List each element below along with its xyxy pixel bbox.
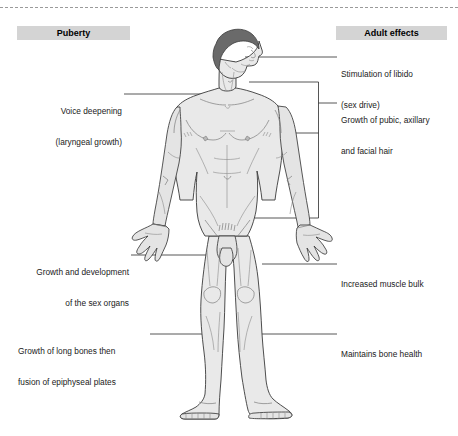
- label-growth-sex-organs-line2: of the sex organs: [8, 298, 129, 308]
- label-growth-hair-line2: and facial hair: [341, 146, 456, 156]
- diagram-canvas: Puberty Adult effects: [0, 0, 458, 436]
- label-growth-sex-organs: Growth and development of the sex organs: [8, 247, 129, 329]
- label-voice-deepening: Voice deepening (laryngeal growth): [8, 86, 122, 168]
- label-growth-hair: Growth of pubic, axillary and facial hai…: [341, 95, 456, 177]
- label-increased-muscle-bulk-line1: Increased muscle bulk: [341, 279, 453, 289]
- label-maintains-bone-health: Maintains bone health: [341, 329, 453, 380]
- label-voice-deepening-line1: Voice deepening: [8, 106, 122, 116]
- label-maintains-bone-health-line1: Maintains bone health: [341, 349, 453, 359]
- label-voice-deepening-line2: (laryngeal growth): [8, 137, 122, 147]
- label-long-bones-line2: fusion of epiphyseal plates: [18, 377, 150, 387]
- label-growth-hair-line1: Growth of pubic, axillary: [341, 115, 456, 125]
- label-stimulation-libido-line1: Stimulation of libido: [341, 69, 453, 79]
- label-increased-muscle-bulk: Increased muscle bulk: [341, 259, 453, 310]
- label-growth-sex-organs-line1: Growth and development: [8, 267, 129, 277]
- label-long-bones-line1: Growth of long bones then: [18, 346, 150, 356]
- label-long-bones: Growth of long bones then fusion of epip…: [18, 326, 150, 408]
